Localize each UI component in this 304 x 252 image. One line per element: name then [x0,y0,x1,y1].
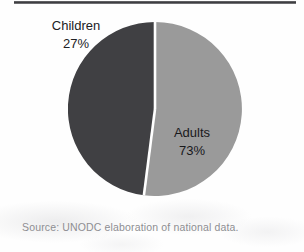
figure-panel: Children 27% Adults 73% Source: UNODC el… [0,0,304,252]
pie-label-adults: Adults 73% [150,124,234,159]
pie-label-children-value: 27% [30,35,122,53]
top-divider-rule [14,1,296,4]
pie-label-children: Children 27% [30,17,122,52]
pie-label-adults-value: 73% [150,142,234,160]
pie-slice-adults[interactable] [144,22,242,196]
pie-label-adults-name: Adults [150,124,234,142]
pie-label-children-name: Children [30,17,122,35]
source-note: Source: UNODC elaboration of national da… [22,221,239,233]
